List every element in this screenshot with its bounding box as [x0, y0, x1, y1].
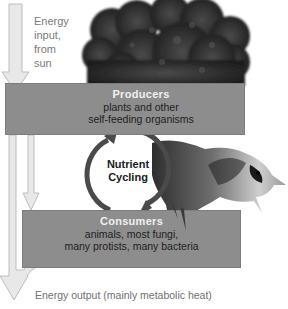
producers-desc-line-2: self-feeding organisms: [38, 113, 244, 125]
nutrient-cycling-line-1: Nutrient: [98, 158, 158, 171]
producers-title: Producers: [38, 88, 244, 101]
consumers-desc-line-2: many protists, many bacteria: [23, 240, 240, 252]
producers-box: Producers plants and other self-feeding …: [5, 83, 245, 135]
energy-output-label: Energy output (mainly metabolic heat): [35, 289, 212, 301]
energy-input-line-1: Energy: [34, 14, 94, 28]
tree-image: [82, 0, 252, 86]
energy-input-line-4: sun: [34, 56, 94, 70]
nutrient-cycling-line-2: Cycling: [98, 171, 158, 184]
energy-input-line-3: from: [34, 42, 94, 56]
energy-input-line-2: input,: [34, 28, 94, 42]
bird-legs-overlay: [150, 205, 210, 235]
producers-to-consumers-arrow: [22, 135, 42, 211]
energy-input-label: Energy input, from sun: [34, 14, 94, 70]
nutrient-cycling-label: Nutrient Cycling: [98, 158, 158, 184]
producers-desc-line-1: plants and other: [38, 101, 244, 113]
